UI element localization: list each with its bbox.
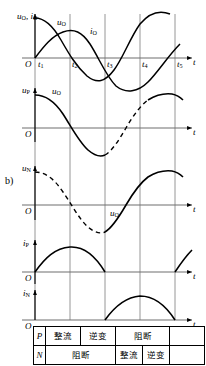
curve-un-solid [105, 171, 183, 232]
panel1-origin-label: O [25, 59, 32, 69]
panel1-curve-label-io: iO [90, 26, 97, 36]
cell-n-empty [170, 346, 205, 365]
panel-in [22, 290, 192, 320]
panel3-axis-label-t: t [193, 204, 196, 214]
panel1-axis-label-t: t [193, 57, 196, 67]
panel-ip [22, 240, 192, 284]
converter-state-table: P 整流 逆变 阻断 N 阻断 整流 逆变 [33, 326, 205, 365]
table-row-p: P 整流 逆变 阻断 [34, 327, 205, 346]
cell-n-block: 阻断 [46, 346, 116, 365]
panel1-y-axis-label: uO, iO [17, 11, 37, 21]
panel5-y-axis-label: iN [23, 288, 30, 298]
tick-label-t1: t1 [38, 59, 44, 69]
curve-ip-pulse-next [175, 250, 192, 272]
panel-un [22, 166, 192, 233]
panel3-curve-label-uo: uO [110, 208, 119, 218]
cell-p-invert: 逆变 [81, 327, 116, 346]
cell-p-rectify: 整流 [46, 327, 81, 346]
panel1-curve-label-uo: uO [57, 17, 66, 27]
panel2-curve-label-uo: uO [52, 86, 61, 96]
cell-p-block: 阻断 [116, 327, 170, 346]
panel2-y-axis-label: uP [22, 85, 30, 95]
figure-label: b) [5, 175, 13, 186]
panel-up [22, 88, 192, 156]
panel3-origin-label: O [25, 206, 32, 216]
tick-label-t2: t2 [72, 59, 78, 69]
tick-label-t5: t5 [177, 59, 183, 69]
panel2-origin-label: O [25, 129, 32, 139]
tick-label-t3: t3 [107, 59, 113, 69]
cell-n-invert: 逆变 [143, 346, 170, 365]
row-header-n: N [34, 346, 46, 365]
tick-label-t4: t4 [142, 59, 148, 69]
panel4-y-axis-label: iP [23, 238, 29, 248]
table-row-n: N 阻断 整流 逆变 [34, 346, 205, 365]
panel4-origin-label: O [25, 273, 32, 283]
row-header-p: P [34, 327, 46, 346]
panel4-axis-label-t: t [193, 271, 196, 281]
curve-up-solid-b [148, 94, 183, 100]
panel5-origin-label: O [25, 321, 32, 331]
cell-p-empty [170, 327, 205, 346]
panel2-axis-label-t: t [193, 127, 196, 137]
cell-n-rectify: 整流 [116, 346, 143, 365]
panel3-y-axis-label: uN [22, 163, 31, 173]
panel-uo-io [22, 12, 192, 91]
waveform-figure [0, 0, 206, 366]
gridlines [35, 14, 175, 320]
curve-uo [35, 12, 170, 81]
